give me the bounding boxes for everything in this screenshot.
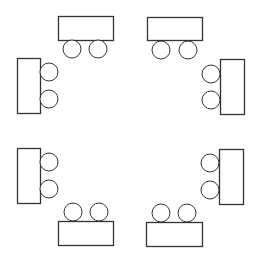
- chair-bottom-right-2: [178, 204, 196, 222]
- tables-layer: [18, 17, 245, 247]
- chair-right-upper-2: [202, 91, 220, 109]
- chair-right-lower-1: [201, 154, 219, 172]
- table-bottom-right: [147, 223, 203, 247]
- table-left-upper: [18, 59, 41, 114]
- table-left-lower: [18, 149, 41, 204]
- seating-layout-diagram: [0, 0, 258, 259]
- chair-top-right-2: [179, 41, 197, 59]
- table-top-right: [148, 18, 203, 41]
- chair-right-lower-2: [201, 181, 219, 199]
- table-right-lower: [220, 150, 244, 205]
- chair-left-lower-2: [40, 180, 58, 198]
- chairs-layer: [40, 40, 220, 222]
- table-top-left: [59, 17, 114, 41]
- chair-left-upper-1: [40, 63, 58, 81]
- chair-top-left-2: [89, 40, 107, 58]
- chair-left-upper-2: [40, 90, 58, 108]
- chair-top-left-1: [63, 40, 81, 58]
- chair-bottom-right-1: [152, 204, 170, 222]
- chair-top-right-1: [152, 41, 170, 59]
- chair-bottom-left-1: [64, 203, 82, 221]
- chair-right-upper-1: [202, 65, 220, 83]
- chair-bottom-left-2: [90, 203, 108, 221]
- table-bottom-left: [59, 222, 114, 246]
- table-right-upper: [221, 60, 245, 115]
- chair-left-lower-1: [40, 153, 58, 171]
